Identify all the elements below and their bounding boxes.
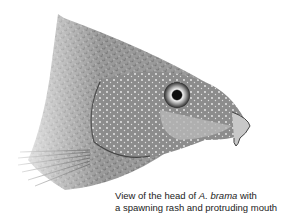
caption-line-2: a spawning rash and protruding mouth [115,202,289,214]
species-name: A. brama [199,190,238,201]
caption-text: View of the head of [115,190,199,201]
caption-text: with [237,190,257,201]
caption-line-1: View of the head of A. brama with [115,190,289,202]
figure-caption: View of the head of A. brama with a spaw… [115,190,289,213]
fish-head-illustration [0,0,289,220]
